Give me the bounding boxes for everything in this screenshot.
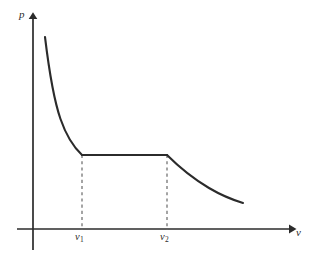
tick-label-v1-base: v — [75, 231, 80, 242]
y-axis-arrowhead — [29, 12, 38, 19]
y-axis-label: p — [19, 9, 25, 20]
volume-axis — [17, 225, 297, 234]
tick-label-v1: v1 — [75, 232, 83, 243]
tick-label-v2-base: v — [160, 231, 165, 242]
isotherm-vapour-branch — [167, 155, 243, 203]
pressure-axis — [29, 12, 38, 250]
tick-label-v2-subscript: 2 — [165, 235, 169, 244]
chart-canvas — [0, 0, 312, 256]
x-axis-label: v — [296, 227, 301, 238]
tick-label-v2: v2 — [160, 232, 168, 243]
isotherm-liquid-branch — [45, 37, 82, 155]
pv-isotherm-figure: p v v1 v2 — [0, 0, 312, 256]
tick-label-v1-subscript: 1 — [80, 235, 84, 244]
